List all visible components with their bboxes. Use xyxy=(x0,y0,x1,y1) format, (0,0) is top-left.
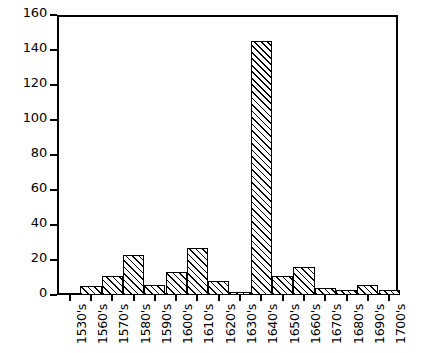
x-axis-tick-label: 1610's xyxy=(203,304,216,344)
y-axis: 020406080100120140160 xyxy=(0,0,57,353)
y-axis-tick-label: 120 xyxy=(23,76,47,89)
y-axis-tick-label: 160 xyxy=(23,6,47,19)
bar xyxy=(80,286,101,295)
y-axis-tick-mark xyxy=(50,119,57,121)
y-axis-tick-label: 80 xyxy=(31,146,47,159)
x-axis-tick-label: 1570's xyxy=(118,304,131,344)
y-axis-tick-label: 40 xyxy=(31,216,47,229)
x-axis-tick-mark xyxy=(218,295,220,301)
bars-layer xyxy=(57,15,398,295)
x-axis-tick-mark xyxy=(260,295,262,301)
y-axis-tick-mark xyxy=(50,84,57,86)
y-axis-tick-mark xyxy=(50,49,57,51)
x-axis-tick-mark xyxy=(303,295,305,301)
x-axis-tick-mark xyxy=(133,295,135,301)
x-axis-tick-mark xyxy=(367,295,369,301)
x-axis-tick-label: 1680's xyxy=(353,304,366,344)
x-axis-tick-label: 1580's xyxy=(140,304,153,344)
x-axis-tick-mark xyxy=(111,295,113,301)
y-axis-tick-label: 100 xyxy=(23,111,47,124)
x-axis-tick-label: 1690's xyxy=(374,304,387,344)
x-axis-tick-mark xyxy=(239,295,241,301)
bar xyxy=(166,272,187,295)
x-axis-tick-label: 1560's xyxy=(97,304,110,344)
x-axis-tick-label: 1640's xyxy=(267,304,280,344)
y-axis-tick-mark xyxy=(50,14,57,16)
x-axis-tick-label: 1650's xyxy=(289,304,302,344)
x-axis: 1530's1560's1570's1580's1590's1600's1610… xyxy=(57,295,398,353)
y-axis-tick-mark xyxy=(50,259,57,261)
y-axis-tick-mark xyxy=(50,154,57,156)
x-axis-tick-mark xyxy=(388,295,390,301)
x-axis-tick-label: 1670's xyxy=(331,304,344,344)
y-axis-tick-label: 140 xyxy=(23,41,47,54)
bar xyxy=(251,41,272,295)
x-axis-tick-label: 1660's xyxy=(310,304,323,344)
histogram-figure: 020406080100120140160 1530's1560's1570's… xyxy=(0,0,443,353)
bar xyxy=(208,281,229,295)
x-axis-tick-label: 1700's xyxy=(395,304,408,344)
x-axis-tick-mark xyxy=(282,295,284,301)
x-axis-tick-label: 1630's xyxy=(246,304,259,344)
y-axis-tick-mark xyxy=(50,294,57,296)
x-axis-tick-label: 1620's xyxy=(225,304,238,344)
y-axis-tick-mark xyxy=(50,189,57,191)
x-axis-tick-label: 1590's xyxy=(161,304,174,344)
x-axis-tick-mark xyxy=(154,295,156,301)
x-axis-tick-mark xyxy=(175,295,177,301)
x-axis-tick-label: 1530's xyxy=(76,304,89,344)
bar xyxy=(123,255,144,295)
bar xyxy=(293,267,314,295)
x-axis-tick-mark xyxy=(324,295,326,301)
x-axis-tick-mark xyxy=(90,295,92,301)
bar xyxy=(272,276,293,295)
y-axis-tick-mark xyxy=(50,224,57,226)
bar xyxy=(144,285,165,296)
bar xyxy=(357,285,378,296)
x-axis-tick-mark xyxy=(196,295,198,301)
y-axis-tick-label: 20 xyxy=(31,251,47,264)
y-axis-tick-label: 60 xyxy=(31,181,47,194)
bar xyxy=(102,276,123,295)
x-axis-tick-label: 1600's xyxy=(182,304,195,344)
y-axis-tick-label: 0 xyxy=(39,286,47,299)
x-axis-tick-mark xyxy=(346,295,348,301)
x-axis-tick-mark xyxy=(69,295,71,301)
bar xyxy=(315,288,336,295)
bar xyxy=(187,248,208,295)
